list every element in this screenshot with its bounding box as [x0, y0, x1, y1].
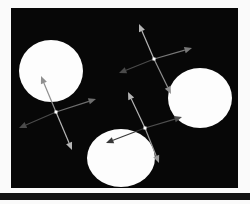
scene-svg: [0, 0, 250, 204]
axes-bottom-middle-center-dot: [144, 127, 147, 130]
axes-top-right-center-dot: [153, 58, 156, 61]
axes-left-center-dot: [55, 111, 58, 114]
blob-top-left: [19, 40, 83, 102]
figure: [0, 0, 250, 204]
bottom-bar: [0, 193, 250, 200]
